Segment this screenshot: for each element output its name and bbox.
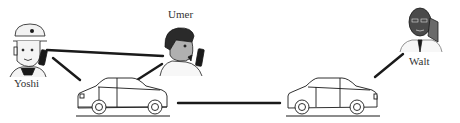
edge-yoshi-car1 (53, 58, 80, 80)
label-yoshi: Yoshi (14, 77, 39, 89)
edge-umer-car1 (137, 64, 162, 80)
person-yoshi-icon (10, 24, 47, 77)
edge-car2-walt (375, 54, 403, 77)
car-2-icon (286, 78, 380, 116)
network-diagram (0, 0, 460, 123)
person-umer-icon (160, 28, 204, 76)
label-umer: Umer (168, 8, 193, 20)
edge-yoshi-umer (47, 50, 163, 56)
car-1-icon (76, 78, 170, 116)
label-walt: Walt (409, 55, 430, 67)
person-walt-icon (400, 8, 442, 52)
